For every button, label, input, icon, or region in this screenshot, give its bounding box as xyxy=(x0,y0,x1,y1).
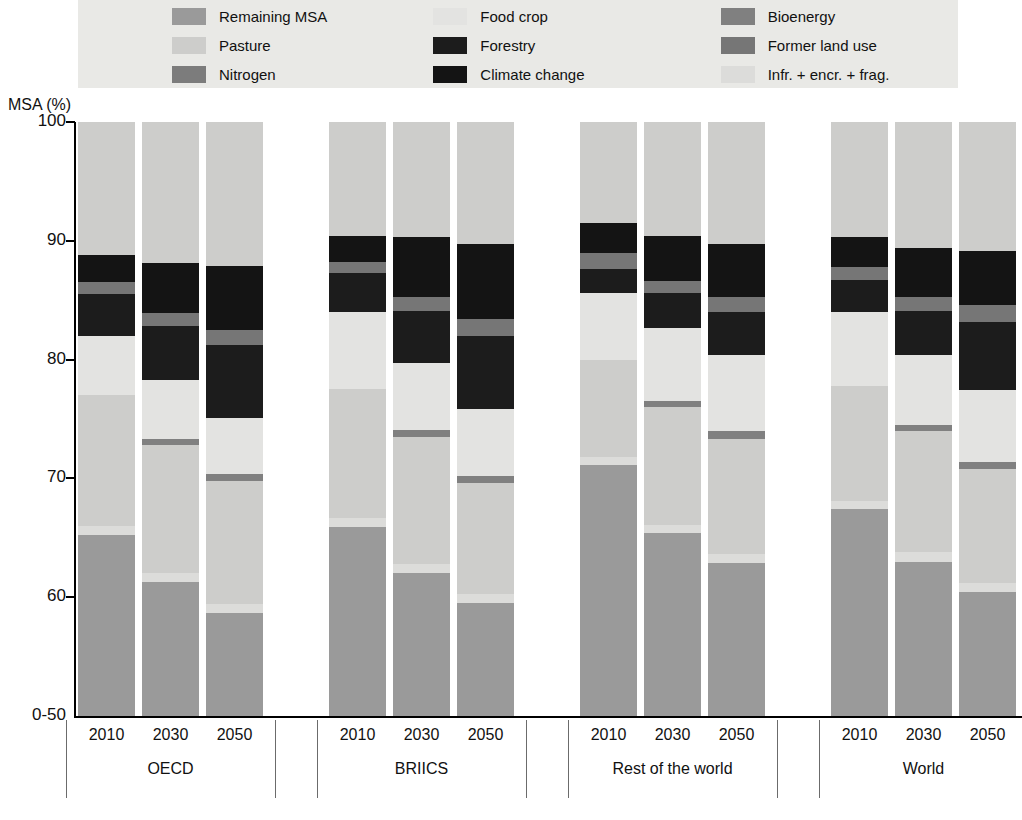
x-axis-group-separator xyxy=(526,720,527,798)
segment-former_land_use xyxy=(206,330,263,345)
segment-climate_change xyxy=(206,266,263,330)
bar-briics-2030[interactable] xyxy=(393,122,450,716)
x-tick-year-oecd-2050: 2050 xyxy=(206,726,263,744)
legend-label-bioenergy: Bioenergy xyxy=(768,8,836,25)
segment-food_crop xyxy=(708,355,765,431)
segment-former_land_use xyxy=(457,319,514,336)
segment-forestry xyxy=(895,311,952,355)
x-tick-year-oecd-2010: 2010 xyxy=(78,726,135,744)
segment-food_crop xyxy=(644,328,701,402)
segment-climate_change xyxy=(393,237,450,296)
segment-remaining_msa xyxy=(644,533,701,716)
segment-remaining_msa xyxy=(831,509,888,716)
segment-infr_encr_frag xyxy=(78,526,135,536)
bar-world-2010[interactable] xyxy=(831,122,888,716)
y-tick-label-100: 100 xyxy=(0,111,66,131)
segment-pasture xyxy=(206,481,263,605)
segment-remaining_top xyxy=(329,122,386,236)
legend-item-nitrogen: Nitrogen xyxy=(78,60,371,89)
bar-oecd-2010[interactable] xyxy=(78,122,135,716)
bar-rest-of-the-world-2010[interactable] xyxy=(580,122,637,716)
segment-remaining_msa xyxy=(142,582,199,716)
segment-infr_encr_frag xyxy=(457,594,514,604)
x-axis-group-separator xyxy=(275,720,276,798)
segment-infr_encr_frag xyxy=(895,552,952,562)
segment-bioenergy xyxy=(959,462,1016,469)
legend-item-forestry: Forestry xyxy=(371,31,664,60)
y-tick-label-80: 80 xyxy=(0,349,66,369)
segment-infr_encr_frag xyxy=(708,554,765,562)
segment-remaining_top xyxy=(457,122,514,244)
x-tick-year-rest-of-the-world-2010: 2010 xyxy=(580,726,637,744)
segment-climate_change xyxy=(708,244,765,296)
segment-food_crop xyxy=(329,312,386,389)
segment-infr_encr_frag xyxy=(580,457,637,465)
y-tick-80 xyxy=(66,359,75,361)
segment-remaining_top xyxy=(393,122,450,237)
segment-bioenergy xyxy=(708,431,765,439)
bar-world-2050[interactable] xyxy=(959,122,1016,716)
segment-pasture xyxy=(580,360,637,457)
bar-oecd-2050[interactable] xyxy=(206,122,263,716)
bar-rest-of-the-world-2050[interactable] xyxy=(708,122,765,716)
segment-remaining_top xyxy=(959,122,1016,251)
segment-infr_encr_frag xyxy=(644,525,701,533)
y-tick-60 xyxy=(66,596,75,598)
segment-pasture xyxy=(895,431,952,552)
x-tick-year-briics-2030: 2030 xyxy=(393,726,450,744)
segment-pasture xyxy=(959,469,1016,583)
legend-item-food_crop: Food crop xyxy=(371,2,664,31)
segment-remaining_top xyxy=(206,122,263,266)
segment-infr_encr_frag xyxy=(831,501,888,509)
legend-swatch-former_land_use xyxy=(721,37,755,54)
bar-world-2030[interactable] xyxy=(895,122,952,716)
segment-forestry xyxy=(142,326,199,379)
segment-remaining_top xyxy=(142,122,199,263)
x-axis-group-separator xyxy=(66,720,67,798)
segment-climate_change xyxy=(457,244,514,319)
legend-item-former_land_use: Former land use xyxy=(665,31,958,60)
segment-bioenergy xyxy=(142,439,199,445)
segment-forestry xyxy=(393,311,450,363)
segment-forestry xyxy=(959,322,1016,391)
segment-pasture xyxy=(78,395,135,526)
x-tick-year-rest-of-the-world-2050: 2050 xyxy=(708,726,765,744)
x-tick-year-briics-2050: 2050 xyxy=(457,726,514,744)
segment-former_land_use xyxy=(329,262,386,273)
segment-forestry xyxy=(708,312,765,355)
legend-label-former_land_use: Former land use xyxy=(768,37,877,54)
segment-climate_change xyxy=(644,236,701,281)
segment-infr_encr_frag xyxy=(393,564,450,574)
chart-legend: Remaining MSAFood cropBioenergyPastureFo… xyxy=(78,0,958,88)
x-group-label-oecd: OECD xyxy=(78,760,263,778)
legend-label-forestry: Forestry xyxy=(480,37,535,54)
segment-former_land_use xyxy=(580,253,637,270)
segment-climate_change xyxy=(831,237,888,267)
segment-bioenergy xyxy=(644,401,701,407)
segment-pasture xyxy=(831,386,888,501)
segment-remaining_top xyxy=(580,122,637,223)
segment-forestry xyxy=(329,273,386,312)
x-axis-line xyxy=(74,716,1022,718)
x-group-label-rest-of-the-world: Rest of the world xyxy=(580,760,765,778)
segment-forestry xyxy=(831,280,888,312)
segment-former_land_use xyxy=(78,282,135,294)
segment-remaining_msa xyxy=(206,613,263,716)
segment-former_land_use xyxy=(393,297,450,311)
segment-pasture xyxy=(644,407,701,525)
segment-climate_change xyxy=(78,255,135,282)
x-axis-group-separator xyxy=(317,720,318,798)
bar-briics-2050[interactable] xyxy=(457,122,514,716)
segment-forestry xyxy=(580,269,637,293)
bar-oecd-2030[interactable] xyxy=(142,122,199,716)
segment-remaining_msa xyxy=(457,603,514,716)
segment-food_crop xyxy=(142,380,199,439)
segment-climate_change xyxy=(580,223,637,253)
segment-forestry xyxy=(78,294,135,336)
legend-swatch-pasture xyxy=(172,37,206,54)
x-tick-year-oecd-2030: 2030 xyxy=(142,726,199,744)
bar-rest-of-the-world-2030[interactable] xyxy=(644,122,701,716)
legend-label-infr_encr_frag: Infr. + encr. + frag. xyxy=(768,66,890,83)
y-tick-label-70: 70 xyxy=(0,467,66,487)
bar-briics-2010[interactable] xyxy=(329,122,386,716)
